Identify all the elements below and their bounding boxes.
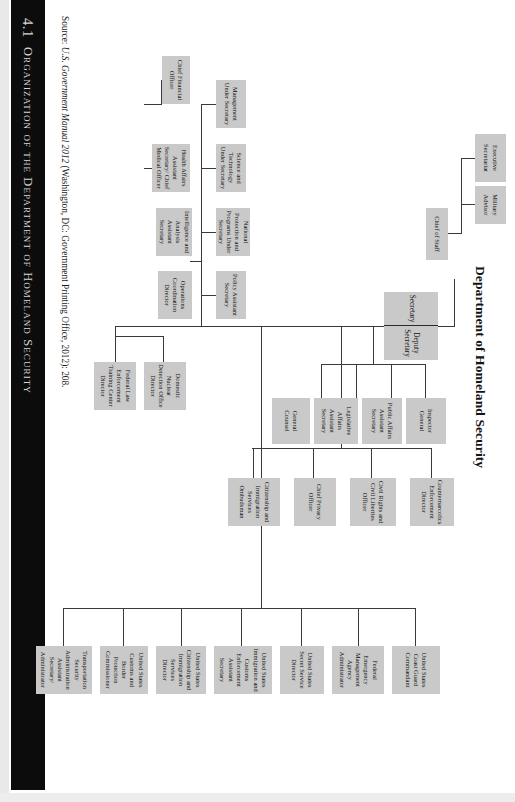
node-public-affairs: Public Affairs Assistant Secretary: [362, 398, 402, 444]
node-operations-coordination: Operations Coordination Director: [158, 271, 192, 319]
node-secretary-deputy: Secretary Deputy Secretary: [384, 292, 438, 360]
node-cbp: United States Customs and Border Protect…: [100, 646, 148, 694]
chart-title: Department of Homeland Security: [472, 266, 488, 468]
connector-policy-v: [201, 295, 216, 296]
source-suffix: (Washington, DC: Government Printing Off…: [60, 163, 70, 387]
node-deputy-secretary: Deputy Secretary: [384, 326, 438, 360]
connector-npp-v: [201, 232, 216, 233]
node-military-advisor: Military Advisor: [475, 186, 506, 224]
connector-st-v: [201, 168, 216, 169]
connector-staff-spine-upper: [322, 364, 426, 365]
node-health-affairs: Health Affairs Assistant Secretary/ Chie…: [152, 144, 190, 192]
node-fletc: Federal Law Enforcement Training Center …: [94, 362, 136, 410]
node-policy: Policy Assistant Secretary: [216, 271, 246, 319]
connector-ops-branch: [115, 326, 116, 336]
connector-cn-h: [431, 448, 432, 478]
connector-ia-v: [190, 261, 202, 262]
connector-cbp-h: [123, 608, 124, 646]
node-chief-privacy-officer: Chief Privacy Officer: [294, 478, 336, 526]
connector-dndo-h: [163, 336, 164, 362]
node-executive-secretariat: Executive Secretariat: [475, 134, 506, 182]
connector-mgmt-v: [201, 104, 216, 105]
connector-execsec-v: [461, 158, 475, 159]
node-civil-rights: Civil Rights and Civil Liberties Officer: [350, 478, 396, 526]
source-title: U.S. Government Manual 2012: [60, 47, 70, 163]
node-ice: United States Immigration and Customs En…: [214, 646, 272, 694]
connector-cos-h: [454, 279, 455, 327]
connector-cfo-v: [144, 104, 162, 105]
rotated-chart-wrapper: Department of Homeland Security: [47, 8, 502, 768]
node-intelligence-analysis: Intelligence and Analysis Assistant Secr…: [156, 208, 192, 256]
node-secretary: Secretary: [384, 292, 438, 326]
connector-pa-h: [391, 364, 392, 398]
node-cis-ombudsman: Citizenship and Immigration Services Omb…: [228, 478, 280, 526]
connector-root-to-components: [261, 326, 262, 609]
node-dndo: Domestic Nuclear Detection Office Direct…: [144, 362, 186, 410]
page-edge-bottom: [0, 793, 515, 802]
node-chief-of-staff: Chief of Staff: [426, 208, 448, 260]
connector-main-trunk: [116, 326, 384, 327]
connector-tsa-h: [63, 608, 64, 646]
page-edge-left: [0, 0, 9, 802]
connector-ig-h: [425, 364, 426, 398]
node-legislative-affairs: Legislative Affairs Assistant Secretary: [314, 398, 358, 444]
node-tsa: Transportation Security Administration A…: [36, 646, 92, 694]
connector-ombuds-h: [253, 448, 254, 478]
node-general-counsel: General Counsel: [272, 398, 310, 444]
connector-staff-spine-lower: [252, 448, 432, 449]
connector-fema-h: [358, 608, 359, 646]
connector-root-to-staff-upper: [373, 326, 374, 364]
source-note: Source: U.S. Government Manual 2012 (Was…: [60, 16, 70, 387]
node-counternarcotics: Counternarcotics Enforcement Director: [410, 478, 454, 526]
node-management: Management Under Secretary: [216, 80, 246, 128]
node-coast-guard: United States Coast Guard Commandant: [392, 646, 440, 694]
node-uscis: United States Citizenship and Immigratio…: [156, 646, 206, 694]
org-chart: Department of Homeland Security: [47, 8, 502, 768]
connector-ice-h: [241, 608, 242, 646]
node-secret-service: United States Secret Service Director: [280, 646, 324, 694]
section-title: Organization of the Department of Homela…: [21, 47, 36, 394]
source-prefix: Source:: [60, 16, 70, 47]
connector-cos-stub: [438, 326, 455, 327]
connector-gc-h: [321, 364, 322, 398]
connector-us-bus-left: [201, 104, 202, 326]
connector-milad-v: [461, 204, 475, 205]
connector-uscis-h: [181, 608, 182, 646]
connector-uscg-h: [415, 608, 416, 646]
connector-la-h: [356, 364, 357, 398]
node-national-protection-programs: National Protection and Programs Under S…: [216, 208, 250, 256]
section-number: 4.1: [20, 18, 37, 38]
connector-usss-h: [301, 608, 302, 646]
connector-fletc-h: [115, 336, 116, 362]
connector-fletc-dndo-spine: [116, 336, 164, 337]
connector-cos-children-h: [461, 158, 462, 234]
node-chief-financial-officer: Chief Financial Officer: [162, 56, 190, 104]
connector-privacy-h: [313, 448, 314, 478]
node-science-technology: Science and Technology Under Secretary: [216, 144, 246, 192]
page: 4.1 Organization of the Department of Ho…: [0, 0, 515, 802]
node-fema: Federal Emergency Management Agency Admi…: [332, 646, 384, 694]
connector-crcl-h: [371, 448, 372, 478]
node-inspector-general: Inspector General: [406, 398, 446, 444]
